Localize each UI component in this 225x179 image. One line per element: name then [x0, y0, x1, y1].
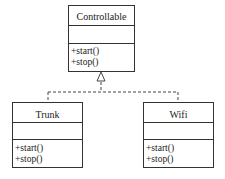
operations: +start() +stop(): [71, 46, 99, 68]
operation: +start(): [71, 46, 99, 57]
operations: +start() +stop(): [15, 143, 43, 165]
divider: [144, 122, 213, 123]
operation: +start(): [146, 143, 174, 154]
class-name: Trunk: [13, 109, 82, 121]
operation: +stop(): [15, 154, 43, 165]
operation: +stop(): [146, 154, 174, 165]
operations: +start() +stop(): [146, 143, 174, 165]
operation: +stop(): [71, 57, 99, 68]
divider: [13, 122, 82, 123]
divider: [144, 139, 213, 140]
uml-diagram: Controllable +start() +stop() Trunk +sta…: [0, 0, 225, 179]
operation: +start(): [15, 143, 43, 154]
class-wifi: Wifi +start() +stop(): [143, 102, 214, 168]
class-name: Wifi: [144, 109, 213, 121]
class-trunk: Trunk +start() +stop(): [12, 102, 83, 168]
divider: [13, 139, 82, 140]
hollow-triangle-arrow-icon: [97, 72, 105, 81]
divider: [69, 25, 134, 26]
interface-controllable: Controllable +start() +stop(): [68, 5, 135, 72]
class-name: Controllable: [69, 11, 134, 23]
divider: [69, 43, 134, 44]
realization-connector: [48, 72, 178, 102]
